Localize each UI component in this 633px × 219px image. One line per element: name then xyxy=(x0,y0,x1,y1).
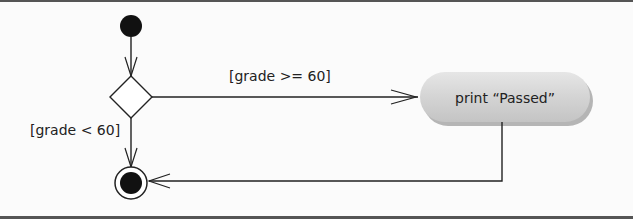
decision-node-icon xyxy=(110,76,152,118)
frame-bottom-border xyxy=(0,216,633,219)
final-node-icon xyxy=(115,167,147,199)
diagram-svg: [grade >= 60] [grade < 60] print “Passed… xyxy=(0,0,633,219)
guard-label-pass: [grade >= 60] xyxy=(229,68,331,84)
transition-decision-to-action xyxy=(152,90,418,104)
transition-decision-to-final xyxy=(125,118,137,167)
action-state-print-passed: print “Passed” xyxy=(420,72,593,126)
action-label: print “Passed” xyxy=(455,90,555,106)
transition-initial-to-decision xyxy=(125,37,137,76)
frame-top-border xyxy=(0,0,633,2)
transition-action-to-final xyxy=(149,122,502,188)
guard-label-fail: [grade < 60] xyxy=(30,122,120,138)
initial-node-icon xyxy=(120,15,142,37)
activity-diagram: [grade >= 60] [grade < 60] print “Passed… xyxy=(0,0,633,219)
